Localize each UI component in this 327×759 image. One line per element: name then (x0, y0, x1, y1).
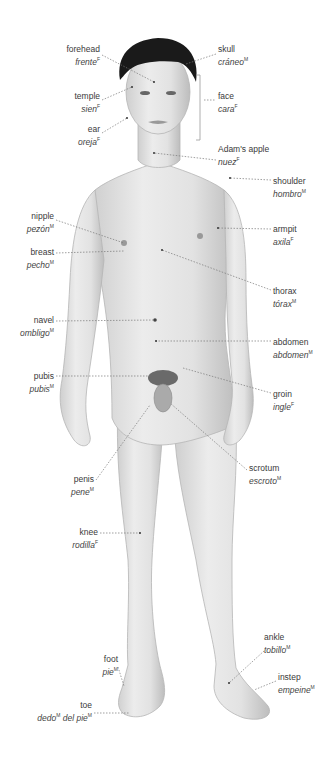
label-groin: groiningleF (273, 389, 294, 412)
label-armpit: armpitaxilaF (273, 224, 297, 247)
label-pubis: pubispubisM (0, 371, 54, 394)
label-english: abdomen (273, 337, 313, 347)
label-forehead: foreheadfrenteF (38, 44, 100, 67)
label-abdomen: abdomenabdomenM (273, 337, 313, 360)
gender-marker: M (50, 383, 54, 389)
label-instep: instepempeineM (278, 672, 315, 695)
gender-marker: F (235, 103, 238, 109)
label-navel: navelombligoM (0, 315, 54, 338)
label-spanish: dedoM del pieM (20, 710, 92, 723)
gender-marker: F (95, 539, 98, 545)
label-spanish: abdomenM (273, 347, 313, 360)
label-spanish: rodillaF (40, 537, 98, 550)
gender-marker: F (290, 236, 293, 242)
gender-marker: F (97, 103, 100, 109)
label-nipple: nipplepezónM (0, 211, 54, 234)
label-english: shoulder (273, 176, 306, 186)
label-english: forehead (38, 44, 100, 54)
label-spanish: pieM (60, 664, 118, 677)
label-spanish: tóraxM (273, 296, 297, 309)
label-english: foot (60, 654, 118, 664)
label-toe: toededoM del pieM (20, 700, 92, 723)
label-spanish: pubisM (0, 381, 54, 394)
label-face: facecaraF (218, 91, 238, 114)
label-spanish: tobilloM (264, 642, 290, 655)
label-spanish: orejaF (38, 134, 100, 147)
label-spanish: ingleF (273, 399, 294, 412)
gender-marker: F (97, 136, 100, 142)
label-spanish: peneM (40, 484, 94, 497)
label-english: knee (40, 527, 98, 537)
label-english: Adam's apple (218, 144, 269, 154)
label-english: toe (20, 700, 92, 710)
label-english: nipple (0, 211, 54, 221)
label-english: thorax (273, 286, 297, 296)
gender-marker: M (56, 712, 60, 718)
label-spanish: axilaF (273, 234, 297, 247)
gender-marker: M (114, 666, 118, 672)
label-english: groin (273, 389, 294, 399)
label-knee: kneerodillaF (40, 527, 98, 550)
label-spanish: pezónM (0, 221, 54, 234)
label-adams-apple: Adam's applenuezF (218, 144, 269, 167)
gender-marker: M (50, 223, 54, 229)
label-spanish: caraF (218, 101, 238, 114)
face-bracket (196, 75, 200, 140)
label-english: navel (0, 315, 54, 325)
label-penis: penispeneM (40, 474, 94, 497)
label-spanish: frenteF (38, 54, 100, 67)
label-english: armpit (273, 224, 297, 234)
label-english: ankle (264, 632, 290, 642)
label-spanish: empeineM (278, 682, 315, 695)
gender-marker: M (88, 712, 92, 718)
gender-marker: F (236, 156, 239, 162)
label-ankle: ankletobilloM (264, 632, 290, 655)
label-spanish: pechoM (0, 257, 54, 270)
label-spanish: nuezF (218, 154, 269, 167)
gender-marker: M (244, 56, 248, 62)
label-english: breast (0, 247, 54, 257)
label-shoulder: shoulderhombroM (273, 176, 306, 199)
label-breast: breastpechoM (0, 247, 54, 270)
label-spanish: hombroM (273, 186, 306, 199)
label-english: temple (38, 91, 100, 101)
label-english: pubis (0, 371, 54, 381)
label-english: skull (218, 44, 248, 54)
gender-marker: M (311, 684, 315, 690)
label-english: ear (38, 124, 100, 134)
gender-marker: M (277, 475, 281, 481)
label-english: scrotum (249, 463, 281, 473)
label-foot: footpieM (60, 654, 118, 677)
gender-marker: F (291, 401, 294, 407)
label-english: penis (40, 474, 94, 484)
gender-marker: M (286, 644, 290, 650)
label-english: instep (278, 672, 315, 682)
label-temple: templesienF (38, 91, 100, 114)
gender-marker: M (50, 327, 54, 333)
label-skull: skullcráneoM (218, 44, 248, 67)
gender-marker: M (50, 259, 54, 265)
gender-marker: M (302, 188, 306, 194)
label-spanish: sienF (38, 101, 100, 114)
label-thorax: thoraxtóraxM (273, 286, 297, 309)
label-scrotum: scrotumescrotoM (249, 463, 281, 486)
gender-marker: M (90, 486, 94, 492)
label-spanish: ombligoM (0, 325, 54, 338)
gender-marker: M (292, 298, 296, 304)
label-ear: earorejaF (38, 124, 100, 147)
gender-marker: M (308, 349, 312, 355)
label-english: face (218, 91, 238, 101)
gender-marker: F (97, 56, 100, 62)
label-spanish: escrotoM (249, 473, 281, 486)
label-spanish: cráneoM (218, 54, 248, 67)
